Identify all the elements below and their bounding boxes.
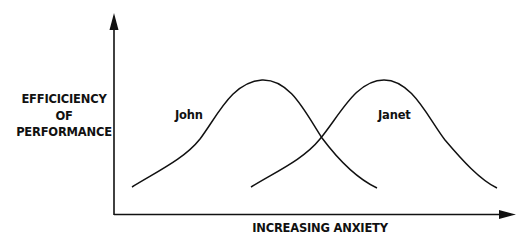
y-axis-label: EFFICICIENCY OF PERFORMANCE bbox=[12, 91, 116, 141]
john-series-label: John bbox=[175, 108, 203, 122]
janet-curve bbox=[251, 80, 497, 188]
x-axis-arrow-icon bbox=[499, 210, 516, 219]
y-axis-label-line3: PERFORMANCE bbox=[12, 124, 116, 141]
janet-series-label: Janet bbox=[378, 108, 411, 122]
y-axis-arrow-icon bbox=[110, 13, 119, 30]
y-axis-label-line1: EFFICICIENCY bbox=[12, 91, 116, 108]
y-axis-label-line2: OF bbox=[12, 108, 116, 125]
john-curve bbox=[132, 80, 377, 188]
x-axis-label: INCREASING ANXIETY bbox=[200, 221, 440, 235]
